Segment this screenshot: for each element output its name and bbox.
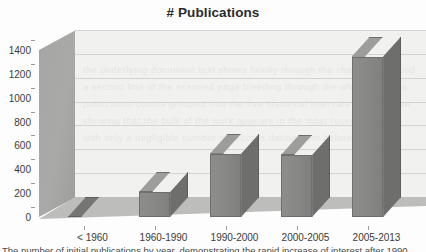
chart-left-wall bbox=[39, 30, 76, 217]
y-tick-label: 600 bbox=[14, 140, 31, 151]
bar-top-face bbox=[68, 197, 99, 217]
y-tick-label: 200 bbox=[14, 188, 31, 199]
x-tick-mark bbox=[84, 226, 85, 230]
bar-front-face bbox=[210, 154, 241, 217]
y-tick-mark bbox=[31, 88, 35, 89]
x-axis: < 19601960-19901990-20002000-20052005-20… bbox=[39, 230, 426, 246]
bar-front-face bbox=[281, 155, 312, 217]
gridline bbox=[75, 30, 426, 31]
y-tick-label: 1400 bbox=[9, 45, 31, 56]
x-tick-mark bbox=[297, 226, 298, 230]
bar-top-face bbox=[281, 135, 312, 155]
y-tick-mark bbox=[31, 207, 35, 208]
plot-area: the underlying document text shows faint… bbox=[39, 28, 426, 228]
x-tick-mark bbox=[368, 226, 369, 230]
x-tick-label: 1990-2000 bbox=[211, 232, 259, 243]
y-tick-mark bbox=[31, 112, 35, 113]
y-tick-mark bbox=[31, 64, 35, 65]
y-tick-label: 400 bbox=[14, 164, 31, 175]
y-tick-label: 800 bbox=[14, 116, 31, 127]
bar bbox=[352, 37, 383, 217]
bar-front-face bbox=[139, 192, 170, 217]
x-tick-label: 1960-1990 bbox=[140, 232, 188, 243]
x-tick-mark bbox=[226, 226, 227, 230]
bar-top-face bbox=[139, 172, 170, 192]
bar-front-face bbox=[352, 57, 383, 217]
bar bbox=[210, 134, 241, 217]
chart-title: # Publications bbox=[0, 5, 426, 20]
bar bbox=[281, 135, 312, 217]
y-tick-label: 1200 bbox=[9, 68, 31, 79]
y-tick-label: 0 bbox=[25, 212, 31, 223]
y-tick-mark bbox=[31, 40, 35, 41]
bar bbox=[139, 172, 170, 217]
y-tick-label: 1000 bbox=[9, 92, 31, 103]
y-tick-mark bbox=[31, 183, 35, 184]
bar-top-face bbox=[210, 134, 241, 154]
publications-bar-chart: # Publications the underlying document t… bbox=[0, 0, 426, 252]
y-tick-mark bbox=[31, 135, 35, 136]
figure-caption-clipped: The number of initial publications by ye… bbox=[2, 245, 426, 252]
x-tick-mark bbox=[155, 226, 156, 230]
x-tick-label: < 1960 bbox=[77, 232, 108, 243]
y-axis: 0200400600800100012001400 bbox=[0, 28, 36, 228]
bar-side-face bbox=[383, 37, 401, 217]
bar bbox=[68, 196, 99, 217]
x-tick-label: 2000-2005 bbox=[282, 232, 330, 243]
y-tick-mark bbox=[31, 159, 35, 160]
bar-top-face bbox=[352, 37, 383, 57]
x-tick-label: 2005-2013 bbox=[353, 232, 401, 243]
